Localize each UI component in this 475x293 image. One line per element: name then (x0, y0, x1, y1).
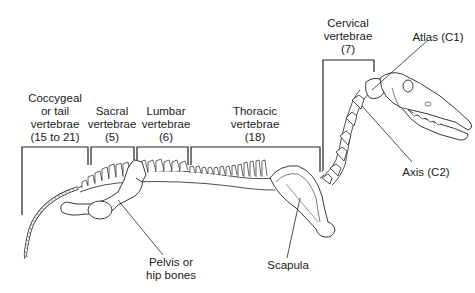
label-line: Axis (C2) (390, 166, 462, 179)
label-line: (18) (220, 131, 290, 144)
label-sacral: Sacral vertebrae (5) (84, 105, 140, 144)
leader-pelvis (118, 200, 163, 255)
label-line: Scapula (260, 259, 316, 272)
label-line: (5) (84, 131, 140, 144)
label-line: Atlas (C1) (408, 31, 468, 44)
label-cervical: Cervical vertebrae (7) (320, 17, 376, 56)
label-thoracic: Thoracic vertebrae (18) (220, 105, 290, 144)
label-lumbar: Lumbar vertebrae (6) (138, 105, 194, 144)
label-atlas: Atlas (C1) (408, 31, 468, 44)
label-line: Lumbar (138, 105, 194, 118)
leader-axis (362, 106, 412, 162)
label-line: vertebrae (22, 118, 88, 131)
label-line: vertebrae (220, 118, 290, 131)
label-line: (6) (138, 131, 194, 144)
label-line: Sacral (84, 105, 140, 118)
label-pelvis: Pelvis or hip bones (136, 256, 206, 282)
leader-scapula (287, 198, 300, 258)
label-axis: Axis (C2) (390, 166, 462, 179)
label-line: or tail (22, 105, 88, 118)
label-line: vertebrae (320, 30, 376, 43)
label-line: vertebrae (84, 118, 140, 131)
spine-vertebrae (78, 159, 275, 192)
tail-vertebrae (26, 188, 79, 258)
label-line: Cervical (320, 17, 376, 30)
label-line: (15 to 21) (22, 131, 88, 144)
label-line: (7) (320, 43, 376, 56)
skeleton-diagram (0, 0, 475, 293)
cervical-vertebrae (320, 90, 368, 185)
label-line: Pelvis or (136, 256, 206, 269)
skull-bone (380, 73, 472, 140)
label-scapula: Scapula (260, 259, 316, 272)
label-line: Thoracic (220, 105, 290, 118)
label-line: hip bones (136, 269, 206, 282)
label-line: vertebrae (138, 118, 194, 131)
label-line: Coccygeal (22, 92, 88, 105)
label-coccygeal: Coccygeal or tail vertebrae (15 to 21) (22, 92, 88, 144)
